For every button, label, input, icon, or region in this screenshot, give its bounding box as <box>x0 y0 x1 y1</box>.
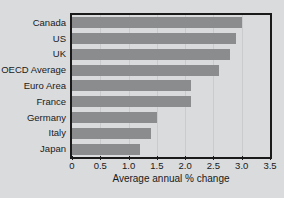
category-label: UK <box>0 49 66 59</box>
x-tick-label: 1.5 <box>150 160 163 172</box>
category-label: Germany <box>0 113 66 123</box>
x-axis-title: Average annual % change <box>70 173 272 185</box>
bar[interactable] <box>72 17 242 28</box>
bar[interactable] <box>72 112 157 123</box>
x-tick-label: 3.0 <box>235 160 248 172</box>
category-label: Canada <box>0 18 66 28</box>
category-label: France <box>0 97 66 107</box>
bar[interactable] <box>72 49 230 60</box>
category-label: Italy <box>0 128 66 138</box>
category-label: Japan <box>0 144 66 154</box>
x-tick-label: 3.5 <box>263 160 276 172</box>
gridline <box>270 15 271 157</box>
x-axis-tick-labels: 00.51.01.52.02.53.03.5 <box>70 160 272 173</box>
bar[interactable] <box>72 65 219 76</box>
x-tick-label: 1.0 <box>122 160 135 172</box>
x-tick-label: 0.5 <box>94 160 107 172</box>
plot-area <box>70 13 272 159</box>
category-label: OECD Average <box>0 65 66 75</box>
bar[interactable] <box>72 80 191 91</box>
category-label: Euro Area <box>0 81 66 91</box>
x-tick-label: 0 <box>69 160 74 172</box>
bar-chart-figure: CanadaUSUKOECD AverageEuro AreaFranceGer… <box>0 0 284 198</box>
bar-series <box>72 15 270 157</box>
x-tick-label: 2.5 <box>207 160 220 172</box>
bar[interactable] <box>72 144 140 155</box>
bar[interactable] <box>72 96 191 107</box>
category-axis-labels: CanadaUSUKOECD AverageEuro AreaFranceGer… <box>0 13 68 159</box>
bar[interactable] <box>72 33 236 44</box>
x-tick-label: 2.0 <box>179 160 192 172</box>
category-label: US <box>0 34 66 44</box>
bar[interactable] <box>72 128 151 139</box>
